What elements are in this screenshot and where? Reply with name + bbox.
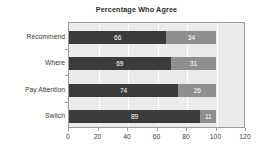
chart-title: Percentage Who Agree (0, 5, 273, 14)
bar-row[interactable]: 6634 (69, 31, 244, 44)
bar-value-label: 66 (69, 31, 166, 44)
bar-segment[interactable]: 69 (69, 57, 171, 70)
x-axis-tick-label-0: 0 (56, 133, 80, 140)
y-axis-label-switch: Switch (2, 109, 68, 122)
bar-segment[interactable]: 66 (69, 31, 166, 44)
bar-value-label: 74 (69, 84, 178, 97)
chart-container: Percentage Who Agree RecommendWherePay A… (0, 0, 273, 158)
bar-value-label: 11 (200, 110, 216, 123)
x-axis-tick-label-60: 60 (145, 133, 169, 140)
x-axis-tick-60 (157, 128, 158, 131)
x-axis-tick-label-100: 100 (204, 133, 228, 140)
bar-value-label: 31 (171, 57, 217, 70)
x-axis-tick-40 (127, 128, 128, 131)
x-axis-tick-80 (186, 128, 187, 131)
y-axis-label-where: Where (2, 56, 68, 69)
bar-row[interactable]: 7426 (69, 84, 244, 97)
bar-value-label: 34 (166, 31, 216, 44)
bar-segment[interactable]: 31 (171, 57, 217, 70)
y-axis-category-labels: RecommendWherePay AttentionSwitch (0, 22, 68, 128)
bar-value-label: 89 (69, 110, 200, 123)
plot-area: 6634693174268911 (68, 22, 245, 128)
x-axis-tick-label-40: 40 (115, 133, 139, 140)
x-axis-tick-label-80: 80 (174, 133, 198, 140)
x-axis-tick-120 (245, 128, 246, 131)
bar-value-label: 69 (69, 57, 171, 70)
bar-segment[interactable]: 11 (200, 110, 216, 123)
x-axis-tick-20 (98, 128, 99, 131)
bar-row[interactable]: 8911 (69, 110, 244, 123)
bar-segment[interactable]: 26 (178, 84, 216, 97)
x-axis: 020406080100120 (68, 128, 245, 154)
bar-value-label: 26 (178, 84, 216, 97)
bar-segment[interactable]: 34 (166, 31, 216, 44)
x-axis-tick-label-120: 120 (233, 133, 257, 140)
x-axis-tick-0 (68, 128, 69, 131)
bar-segment[interactable]: 89 (69, 110, 200, 123)
x-axis-tick-100 (216, 128, 217, 131)
x-axis-tick-label-20: 20 (86, 133, 110, 140)
bar-row[interactable]: 6931 (69, 57, 244, 70)
y-axis-label-pay-attention: Pay Attention (2, 83, 68, 96)
y-axis-label-recommend: Recommend (2, 30, 68, 43)
bar-segment[interactable]: 74 (69, 84, 178, 97)
